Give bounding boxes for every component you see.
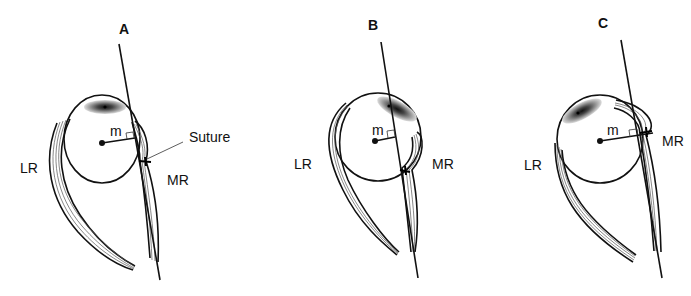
line-of-action: [381, 42, 418, 278]
moment-arm-label: m: [372, 122, 384, 138]
moment-arm-label: m: [607, 122, 619, 138]
pupil: [103, 105, 106, 108]
lr-label-a: LR: [20, 160, 38, 176]
lr-label-b: LR: [294, 156, 312, 172]
panel-a: A m Suture LR MR: [20, 21, 230, 280]
lateral-rectus-muscle: [50, 119, 135, 270]
mr-label-b: MR: [432, 156, 454, 172]
lr-label-c: LR: [524, 157, 542, 173]
pupil: [576, 111, 579, 114]
lateral-rectus-muscle: [555, 143, 636, 262]
mr-label-c: MR: [662, 133, 684, 149]
eye-muscle-diagram: A m Suture LR MR: [0, 0, 691, 296]
line-of-action: [621, 40, 662, 278]
panel-b: B m LR MR: [294, 17, 454, 278]
mr-label-a: MR: [167, 172, 189, 188]
panel-label-b: B: [368, 17, 378, 33]
suture-label: Suture: [189, 129, 230, 145]
panel-label-c: C: [598, 15, 608, 31]
panel-c: C m LR MR: [524, 15, 684, 278]
suture-callout-line: [147, 142, 183, 159]
panel-label-a: A: [119, 21, 129, 37]
moment-arm-label: m: [110, 123, 122, 139]
